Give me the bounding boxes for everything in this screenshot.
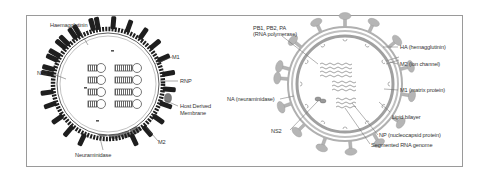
label-polymerase-2: (RNA polymerase) xyxy=(253,31,297,38)
label-ns2-right: NS2 xyxy=(271,128,282,135)
label-m1-left: M1 xyxy=(172,54,180,61)
label-m1-right: M1 (matrix protein) xyxy=(400,87,445,94)
label-ha: HA (hemagglutinin) xyxy=(400,44,446,51)
label-genome: Segmented RNA genome xyxy=(371,142,432,149)
label-lipid: Lipid bilayer xyxy=(392,114,421,121)
label-host-membrane-1: Host Derived xyxy=(180,103,211,110)
label-ns2-left: NS2 xyxy=(37,70,48,77)
label-rnp: RNP xyxy=(180,78,192,85)
left-virion xyxy=(40,16,178,150)
label-np: NP (nucleocapsid protein) xyxy=(379,132,441,139)
label-m2-left: M2 xyxy=(158,139,166,146)
label-haemagglutinin: Haemagglutinin xyxy=(50,22,87,29)
label-host-membrane-2: Membrane xyxy=(180,110,206,117)
label-na: NA (neuraminidase) xyxy=(227,96,275,103)
label-m2-right: M2 (ion channel) xyxy=(400,61,440,68)
label-neuraminidase: Neuraminidase xyxy=(75,152,111,159)
